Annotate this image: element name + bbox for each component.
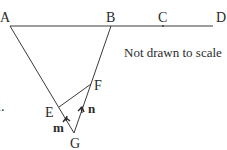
label-vector-m: m bbox=[53, 120, 64, 135]
label-a: A bbox=[0, 10, 11, 25]
question-number-fragment: l. bbox=[0, 99, 4, 114]
label-f: F bbox=[94, 78, 102, 93]
line-ef bbox=[59, 84, 91, 107]
line-bg bbox=[74, 26, 111, 133]
label-vector-n: n bbox=[88, 101, 96, 116]
point-c-marker bbox=[162, 25, 164, 27]
geometry-diagram: A B C D E F G m n Not drawn to scale l. bbox=[0, 0, 227, 150]
label-g: G bbox=[70, 136, 80, 150]
label-e: E bbox=[45, 105, 54, 120]
label-b: B bbox=[106, 10, 115, 25]
label-d: D bbox=[216, 10, 226, 25]
label-c: C bbox=[158, 10, 167, 25]
not-to-scale-note: Not drawn to scale bbox=[124, 45, 222, 60]
line-ag bbox=[10, 26, 74, 133]
